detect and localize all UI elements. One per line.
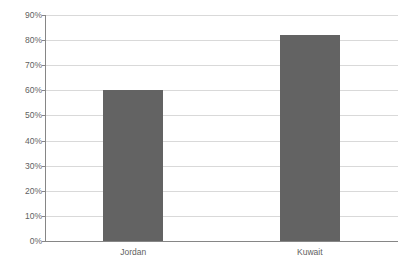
y-axis-tick-mark <box>42 191 45 192</box>
gridline <box>45 216 398 217</box>
gridline <box>45 65 398 66</box>
gridline <box>45 90 398 91</box>
y-axis-tick-label: 20% <box>2 187 42 196</box>
y-axis-tick-mark <box>42 241 45 242</box>
bar <box>103 90 163 241</box>
y-axis-tick-label: 40% <box>2 136 42 145</box>
y-axis-tick-mark <box>42 90 45 91</box>
x-axis-line <box>45 241 398 242</box>
bar <box>280 35 340 241</box>
y-axis-tick-mark <box>42 141 45 142</box>
y-axis-tick-label: 60% <box>2 86 42 95</box>
y-axis-tick-mark <box>42 216 45 217</box>
y-axis-tick-labels: 0%10%20%30%40%50%60%70%80%90% <box>0 0 42 269</box>
y-axis-tick-mark <box>42 166 45 167</box>
y-axis-tick-label: 90% <box>2 11 42 20</box>
y-axis-tick-mark <box>42 115 45 116</box>
plot-area <box>45 15 398 241</box>
x-axis-category-label: Kuwait <box>297 248 323 257</box>
y-axis-line <box>45 15 46 242</box>
y-axis-tick-label: 50% <box>2 111 42 120</box>
y-axis-tick-label: 80% <box>2 36 42 45</box>
y-axis-tick-mark <box>42 65 45 66</box>
y-axis-tick-mark <box>42 15 45 16</box>
y-axis-tick-mark <box>42 40 45 41</box>
gridline <box>45 15 398 16</box>
gridline <box>45 40 398 41</box>
bar-chart: 0%10%20%30%40%50%60%70%80%90% JordanKuwa… <box>0 0 406 269</box>
y-axis-tick-label: 70% <box>2 61 42 70</box>
gridline <box>45 141 398 142</box>
x-axis-category-label: Jordan <box>120 248 146 257</box>
gridline <box>45 166 398 167</box>
gridline <box>45 191 398 192</box>
y-axis-tick-label: 10% <box>2 212 42 221</box>
y-axis-tick-label: 30% <box>2 161 42 170</box>
y-axis-tick-label: 0% <box>2 237 42 246</box>
gridline <box>45 115 398 116</box>
